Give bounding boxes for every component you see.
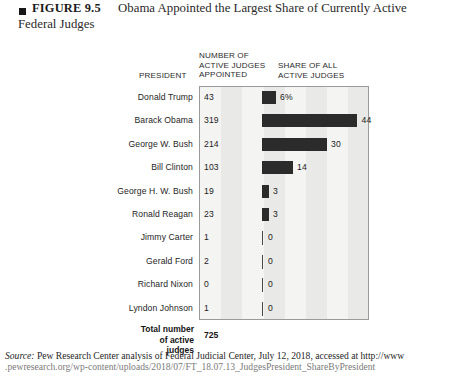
share-value-label: 0 xyxy=(268,303,273,313)
share-value-label: 3 xyxy=(273,209,278,219)
chart-row: Ronald Reagan233 xyxy=(0,203,459,226)
judges-appointed-count: 214 xyxy=(204,139,219,149)
president-name: George W. Bush xyxy=(129,139,193,149)
president-name: Gerald Ford xyxy=(146,256,193,266)
judges-appointed-count: 23 xyxy=(204,209,214,219)
chart-row: Lyndon Johnson10 xyxy=(0,297,459,320)
share-bar xyxy=(262,185,269,198)
judges-appointed-count: 103 xyxy=(204,162,219,172)
column-header-share-of-all-active-judges: SHARE OF ALL ACTIVE JUDGES xyxy=(278,61,344,80)
total-active-judges-value: 725 xyxy=(204,330,218,340)
chart-row: Bill Clinton10314 xyxy=(0,156,459,179)
judges-appointed-count: 2 xyxy=(204,256,209,266)
share-value-label: 14 xyxy=(297,162,307,172)
president-name: Donald Trump xyxy=(138,92,193,102)
source-note: Source: Pew Research Center analysis of … xyxy=(5,350,459,373)
total-label-line-1: Total number xyxy=(133,324,194,335)
share-value-label: 3 xyxy=(273,186,278,196)
source-line-1: Pew Research Center analysis of Federal … xyxy=(34,350,404,361)
president-name: Richard Nixon xyxy=(138,279,193,289)
president-name: Bill Clinton xyxy=(151,162,193,172)
column-header-number-of-active-judges-appointed: NUMBER OF ACTIVE JUDGES APPOINTED xyxy=(199,51,265,80)
column-header-president: PRESIDENT xyxy=(139,71,187,81)
share-bar xyxy=(262,161,293,174)
president-name: Barack Obama xyxy=(134,115,193,125)
share-bar xyxy=(262,255,263,269)
chart-row: George W. Bush21430 xyxy=(0,133,459,156)
chart-row: Barack Obama31944 xyxy=(0,109,459,132)
figure-number-label: FIGURE 9.5 xyxy=(32,1,101,15)
chart-row: Gerald Ford20 xyxy=(0,250,459,273)
share-value-label: 30 xyxy=(331,139,341,149)
share-bar xyxy=(262,278,263,292)
president-name: Ronald Reagan xyxy=(132,209,193,219)
share-bar xyxy=(262,231,263,245)
share-value-label: 0 xyxy=(268,279,273,289)
judges-appointed-count: 1 xyxy=(204,232,209,242)
figure-title-line-2: Federal Judges xyxy=(18,17,459,32)
chart-row: Richard Nixon00 xyxy=(0,273,459,296)
figure-header: FIGURE 9.5 Obama Appointed the Largest S… xyxy=(0,1,459,32)
president-name: Lyndon Johnson xyxy=(129,303,193,313)
judges-appointed-count: 43 xyxy=(204,92,214,102)
share-bar xyxy=(262,114,357,127)
source-line-2: .pewresearch.org/wp-content/uploads/2018… xyxy=(5,361,459,372)
share-value-label: 0 xyxy=(268,232,273,242)
chart-row: George H. W. Bush193 xyxy=(0,180,459,203)
share-bar xyxy=(262,138,327,151)
share-bar xyxy=(262,208,269,221)
judges-appointed-count: 319 xyxy=(204,115,219,125)
source-prefix: Source: xyxy=(5,350,34,361)
judges-appointed-count: 1 xyxy=(204,303,209,313)
figure-title-line-1: FIGURE 9.5 Obama Appointed the Largest S… xyxy=(18,1,459,16)
share-value-label: 44 xyxy=(362,115,372,125)
judges-appointed-count: 19 xyxy=(204,186,214,196)
chart-row: Donald Trump436% xyxy=(0,86,459,109)
president-name: George H. W. Bush xyxy=(117,186,193,196)
chart-rows: Donald Trump436%Barack Obama31944George … xyxy=(0,86,459,320)
share-bar xyxy=(262,91,276,104)
share-bar xyxy=(262,302,263,316)
president-name: Jimmy Carter xyxy=(141,232,193,242)
share-value-label: 0 xyxy=(268,256,273,266)
black-square-bullet-icon xyxy=(19,8,26,15)
judges-appointed-count: 0 xyxy=(204,279,209,289)
chart-row: Jimmy Carter10 xyxy=(0,226,459,249)
share-value-label: 6% xyxy=(280,92,293,102)
figure-title-text: Obama Appointed the Largest Share of Cur… xyxy=(118,1,407,15)
column-headers: PRESIDENT NUMBER OF ACTIVE JUDGES APPOIN… xyxy=(0,45,459,85)
